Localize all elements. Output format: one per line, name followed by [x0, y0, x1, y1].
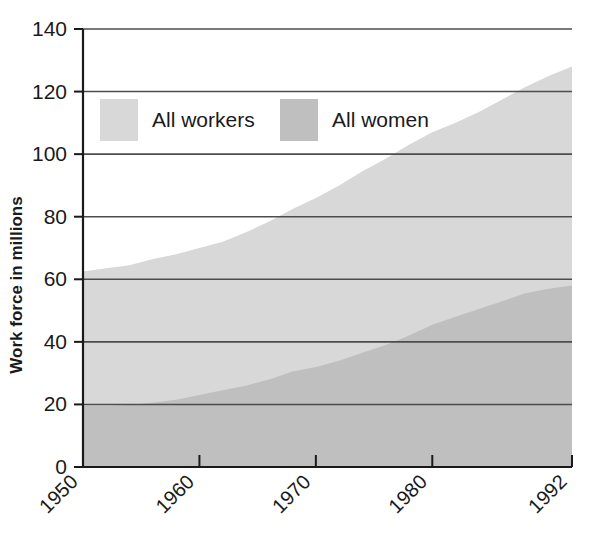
- y-tick-label-120: 120: [32, 80, 67, 103]
- y-tick-label-100: 100: [32, 142, 67, 165]
- legend-swatch-all-workers: [100, 99, 138, 141]
- legend-swatch-all-women: [280, 99, 318, 141]
- legend-label-all-workers: All workers: [152, 108, 255, 131]
- y-tick-label-80: 80: [44, 205, 67, 228]
- work-force-area-chart: 020406080100120140 19501960197019801992 …: [0, 0, 604, 539]
- legend-label-all-women: All women: [332, 108, 429, 131]
- y-tick-label-20: 20: [44, 392, 67, 415]
- y-axis-title: Work force in millions: [7, 196, 26, 373]
- y-tick-label-40: 40: [44, 330, 67, 353]
- y-tick-label-140: 140: [32, 17, 67, 40]
- y-tick-label-60: 60: [44, 267, 67, 290]
- chart-container: 020406080100120140 19501960197019801992 …: [0, 0, 604, 539]
